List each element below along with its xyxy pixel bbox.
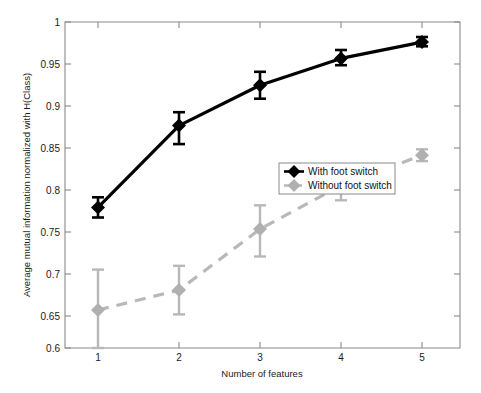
x-tick-label-2: 2 <box>176 352 182 363</box>
legend-label-with-foot-switch: With foot switch <box>308 166 378 177</box>
chart-figure: 1 0.95 0.9 0.85 0.8 0.75 0.7 0.65 0.6 1 <box>0 0 481 393</box>
chart-legend[interactable]: With foot switch Without foot switch <box>279 163 395 194</box>
x-axis-title: Number of features <box>221 368 303 379</box>
y-tick-label-065: 0.65 <box>41 311 61 322</box>
x-tick-label-5: 5 <box>419 352 425 363</box>
y-tick-label-07: 0.7 <box>46 269 60 280</box>
x-tick-label-4: 4 <box>338 352 344 363</box>
x-tick-label-1: 1 <box>95 352 101 363</box>
y-tick-label-06: 0.6 <box>46 343 60 354</box>
y-tick-label-085: 0.85 <box>41 143 61 154</box>
y-tick-label-08: 0.8 <box>46 185 60 196</box>
y-tick-label-075: 0.75 <box>41 227 61 238</box>
y-tick-label-1: 1 <box>54 17 60 28</box>
x-axis-tick-labels: 1 2 3 4 5 <box>95 352 425 363</box>
y-axis-title: Average mutual information normalized wi… <box>21 73 32 297</box>
x-tick-label-3: 3 <box>257 352 263 363</box>
y-axis-tick-labels: 1 0.95 0.9 0.85 0.8 0.75 0.7 0.65 0.6 <box>41 17 61 354</box>
chart-canvas: 1 0.95 0.9 0.85 0.8 0.75 0.7 0.65 0.6 1 <box>0 0 481 393</box>
y-tick-label-09: 0.9 <box>46 101 60 112</box>
legend-label-without-foot-switch: Without foot switch <box>308 180 392 191</box>
y-tick-label-095: 0.95 <box>41 59 61 70</box>
